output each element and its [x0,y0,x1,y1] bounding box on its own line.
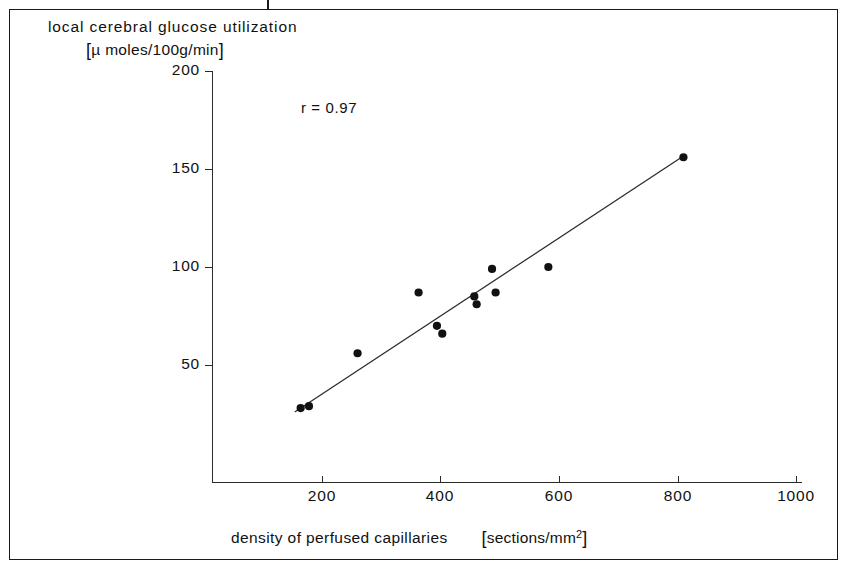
data-point [438,330,446,338]
y-axis-units-close-bracket: ] [219,40,224,60]
y-tick-mark-200 [205,71,213,72]
x-tick-mark-800 [678,476,679,483]
data-point [488,265,496,273]
regression-line [295,155,685,412]
x-axis-units-close-bracket: ] [582,528,587,548]
data-point [305,402,313,410]
x-tick-label-800: 800 [646,487,710,505]
data-point [353,349,361,357]
data-point [544,263,552,271]
x-axis-units: [sections/mm2] [482,529,588,546]
x-axis-title: density of perfused capillaries[sections… [231,528,588,549]
y-tick-label-50: 50 [138,355,200,373]
data-points-group [297,153,688,412]
x-axis-units-text: sections/mm [487,529,576,546]
y-axis-line [212,71,213,483]
data-point [679,153,687,161]
y-tick-mark-50 [205,365,213,366]
x-tick-label-200: 200 [290,487,354,505]
x-tick-mark-400 [440,476,441,483]
data-point [492,288,500,296]
data-point [470,292,478,300]
data-point [297,404,305,412]
y-tick-mark-150 [205,169,213,170]
y-tick-label-100: 100 [138,257,200,275]
plot-area: local cerebral glucose utilization [µ mo… [0,0,850,577]
x-tick-mark-1000 [796,476,797,483]
y-tick-label-150: 150 [138,159,200,177]
regression-line-segment [295,155,685,412]
data-point [433,322,441,330]
x-axis-title-text: density of perfused capillaries [231,529,448,546]
correlation-annotation: r = 0.97 [301,99,357,116]
x-tick-mark-200 [322,476,323,483]
y-axis-title-line1: local cerebral glucose utilization [48,18,297,36]
data-point [414,288,422,296]
y-axis-units-text: µ moles/100g/min [91,41,218,58]
x-tick-label-400: 400 [408,487,472,505]
x-tick-label-600: 600 [527,487,591,505]
x-axis-line [212,482,802,483]
y-tick-label-200: 200 [138,61,200,79]
x-tick-mark-600 [559,476,560,483]
figure-page: local cerebral glucose utilization [µ mo… [0,0,850,577]
data-point [473,300,481,308]
y-tick-mark-100 [205,267,213,268]
y-axis-title-line2: [µ moles/100g/min] [86,40,224,61]
x-tick-label-1000: 1000 [764,487,828,505]
